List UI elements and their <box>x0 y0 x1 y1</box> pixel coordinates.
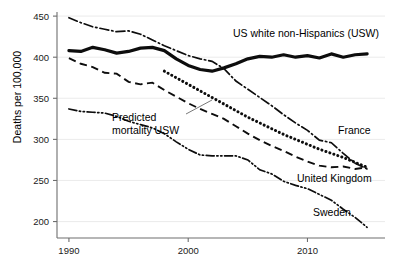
series-label-united-kingdom: United Kingdom <box>297 172 372 184</box>
ticks-group <box>53 16 307 242</box>
line-chart-plot: 200250300350400450199020002010 <box>0 0 395 269</box>
axes-group <box>57 12 385 238</box>
y-axis-title-text: Deaths per 100,000 <box>11 51 23 143</box>
y-tick-label: 300 <box>33 134 49 145</box>
y-tick-label: 350 <box>33 93 49 104</box>
annotation-line-2: mortality USW <box>112 124 179 137</box>
series-label-sweden: Sweden <box>313 206 351 218</box>
series-label-france: France <box>338 124 371 136</box>
annotation-leader-line <box>186 100 212 114</box>
y-tick-label: 400 <box>33 52 49 63</box>
annotation-line-1: Predicted <box>112 111 179 124</box>
gridlines-group <box>57 16 385 221</box>
y-tick-label: 200 <box>33 216 49 227</box>
x-tick-label: 2000 <box>178 245 199 256</box>
series-line-france <box>69 18 367 169</box>
series-line-us-white-non-hispanics-usw <box>69 47 367 71</box>
annotation-predicted-mortality: Predicted mortality USW <box>112 111 179 137</box>
chart-container: 200250300350400450199020002010 Deaths pe… <box>0 0 395 269</box>
series-label-usw: US white non-Hispanics (USW) <box>233 27 379 39</box>
y-tick-label: 250 <box>33 175 49 186</box>
y-tick-label: 450 <box>33 11 49 22</box>
x-tick-label: 1990 <box>58 245 79 256</box>
x-tick-label: 2010 <box>297 245 318 256</box>
y-axis-title: Deaths per 100,000 <box>7 37 25 157</box>
